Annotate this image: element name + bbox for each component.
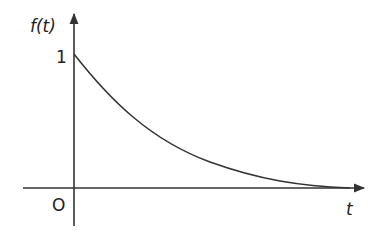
decay-graph: f(t) 1 O t [0, 0, 374, 233]
y-tick-label: 1 [56, 47, 67, 67]
y-axis-label: f(t) [30, 16, 56, 36]
origin-label: O [52, 195, 65, 215]
decay-curve [74, 54, 350, 188]
x-axis-label: t [346, 199, 354, 219]
